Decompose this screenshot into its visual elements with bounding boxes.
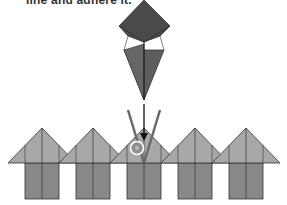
arrow-unit — [59, 128, 127, 199]
kite-fold-line — [160, 36, 164, 50]
arrow-unit — [212, 128, 280, 199]
kite-fold-line — [124, 36, 128, 50]
folded-kite-piece — [119, 0, 170, 100]
arrow-unit — [8, 128, 76, 199]
origami-diagram — [0, 0, 287, 205]
kite-lower-left-flap — [124, 44, 144, 100]
kite-top — [119, 0, 170, 42]
arrow-unit — [161, 128, 229, 199]
glue-marker-dot — [135, 146, 139, 150]
